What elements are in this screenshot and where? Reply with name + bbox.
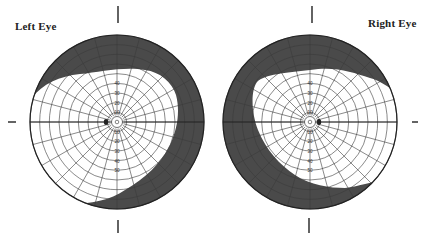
- blind-spot: [317, 119, 321, 125]
- blind-spot: [104, 119, 108, 125]
- visual-field-diagram: 102030401020304050 102030401020304050: [0, 0, 421, 239]
- right-eye-field: 102030401020304050: [210, 20, 410, 230]
- scale-label: 30: [307, 149, 313, 154]
- scale-label: 30: [114, 149, 120, 154]
- scale-label: 20: [114, 139, 120, 144]
- scale-label: 50: [114, 168, 120, 173]
- scale-label: 20: [114, 101, 120, 106]
- scale-label: 10: [307, 130, 313, 135]
- scale-label: 40: [114, 159, 120, 164]
- scale-label: 20: [307, 139, 313, 144]
- scale-label: 40: [307, 159, 313, 164]
- fixation-ring: [112, 117, 123, 128]
- scale-label: 50: [307, 168, 313, 173]
- scale-label: 30: [307, 91, 313, 96]
- scale-label: 10: [114, 130, 120, 135]
- scale-label: 20: [307, 101, 313, 106]
- scale-label: 30: [114, 91, 120, 96]
- fixation-ring: [305, 117, 316, 128]
- scale-label: 40: [114, 81, 120, 86]
- left-eye-field: 102030401020304050: [20, 20, 220, 230]
- scale-label: 10: [114, 110, 120, 115]
- scale-label: 10: [307, 110, 313, 115]
- scale-label: 40: [307, 81, 313, 86]
